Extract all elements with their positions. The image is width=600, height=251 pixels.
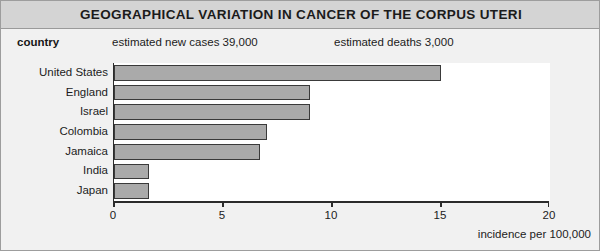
x-tick-label: 5 [219, 209, 225, 221]
category-label: Colombia [59, 126, 108, 138]
bar [114, 183, 149, 199]
bar-row [114, 104, 550, 120]
category-label: United States [39, 67, 108, 79]
category-label: India [83, 165, 108, 177]
bar-row [114, 183, 550, 199]
chart-body: country estimated new cases 39,000 estim… [1, 29, 600, 251]
x-tick-label: 15 [434, 209, 447, 221]
chart-figure: GEOGRAPHICAL VARIATION IN CANCER OF THE … [0, 0, 600, 251]
bar [114, 144, 260, 160]
x-axis-title: incidence per 100,000 [478, 228, 591, 240]
bar [114, 104, 310, 120]
x-tick-label: 0 [110, 209, 116, 221]
x-tick-mark [113, 201, 115, 207]
bar [114, 124, 267, 140]
x-tick-label: 10 [325, 209, 338, 221]
bar-row [114, 65, 550, 81]
x-tick-mark [222, 201, 224, 207]
bar [114, 85, 310, 101]
x-tick-mark [440, 201, 442, 207]
bar [114, 65, 441, 81]
bar-row [114, 164, 550, 180]
plot-wrapper: United StatesEnglandIsraelColombiaJamaic… [1, 29, 600, 251]
category-label: Israel [80, 106, 108, 118]
x-tick-mark [331, 201, 333, 207]
category-label: Japan [77, 185, 108, 197]
plot-area [113, 63, 550, 201]
category-label: England [66, 87, 108, 99]
x-tick-label: 20 [543, 209, 556, 221]
title-band: GEOGRAPHICAL VARIATION IN CANCER OF THE … [1, 1, 600, 29]
bar-row [114, 85, 550, 101]
bar-row [114, 124, 550, 140]
y-axis-category-labels: United StatesEnglandIsraelColombiaJamaic… [1, 63, 108, 201]
x-tick-mark [548, 201, 550, 207]
bar-row [114, 144, 550, 160]
category-label: Jamaica [65, 146, 108, 158]
chart-title: GEOGRAPHICAL VARIATION IN CANCER OF THE … [80, 7, 522, 22]
bar [114, 164, 149, 180]
